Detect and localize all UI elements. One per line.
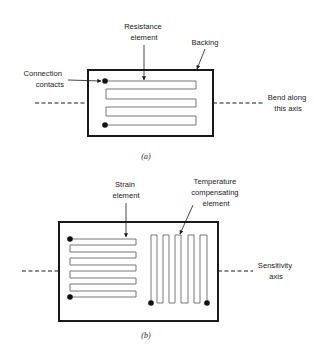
figure-a: Resistance element Backing Connection co…	[23, 22, 308, 161]
sensitivity-axis-label: Sensitivity axis	[258, 261, 294, 281]
temperature-element-label: Temperature compensating element	[191, 177, 240, 208]
connection-contacts-label: Connection contacts	[23, 69, 64, 89]
connection-contact-top	[102, 78, 108, 84]
figure-b: Strain element Temperature compensating …	[22, 177, 294, 340]
temperature-contact-left	[148, 300, 154, 306]
strain-gauge-diagram: Resistance element Backing Connection co…	[0, 0, 325, 345]
strain-element-label: Strain element	[112, 180, 140, 200]
temperature-contact-right	[204, 300, 210, 306]
resistance-element-label: Resistance element	[124, 22, 164, 42]
strain-contact-bottom	[67, 294, 73, 300]
caption-b: (b)	[141, 331, 151, 340]
backing-leader	[197, 49, 205, 69]
bend-axis-label: Bend along this axis	[268, 93, 309, 113]
caption-a: (a)	[141, 152, 151, 161]
strain-contact-top	[67, 236, 73, 242]
connection-contact-bottom	[102, 122, 108, 128]
backing-label: Backing	[191, 38, 218, 47]
